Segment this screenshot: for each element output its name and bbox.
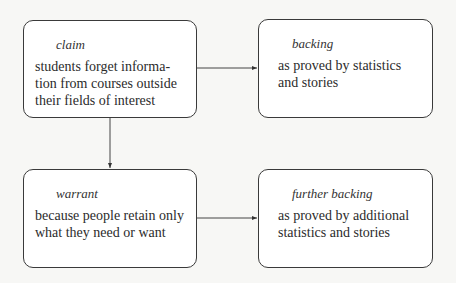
further-backing-box: further backing as proved by additional … [258, 169, 433, 268]
backing-text: as proved by statistics and stories [278, 57, 426, 91]
claim-label: claim [56, 37, 85, 53]
claim-box: claim students forget informa- tion from… [23, 20, 197, 118]
warrant-label: warrant [56, 186, 98, 202]
further-backing-label: further backing [292, 186, 373, 202]
claim-text: students forget informa- tion from cours… [35, 58, 190, 109]
warrant-text: because people retain only what they nee… [35, 207, 190, 241]
further-backing-text: as proved by additional statistics and s… [278, 207, 426, 241]
backing-label: backing [292, 36, 333, 52]
backing-box: backing as proved by statistics and stor… [258, 19, 433, 118]
warrant-box: warrant because people retain only what … [23, 169, 197, 268]
